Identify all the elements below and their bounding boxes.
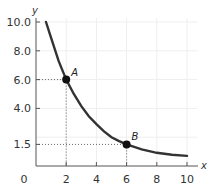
ticks: 02468101.54.06.08.010.0: [7, 16, 195, 186]
data-points: AB: [62, 67, 138, 149]
y-tick-label: 4.0: [14, 102, 32, 115]
y-tick-label: 10.0: [7, 16, 32, 29]
x-tick-label: 10: [180, 173, 194, 186]
y-axis-label: y: [31, 5, 39, 16]
x-tick-label: 8: [153, 173, 160, 186]
curve-line: [46, 22, 187, 156]
x-tick-label: 4: [93, 173, 100, 186]
point-label-b: B: [132, 131, 139, 142]
x-axis-label: x: [200, 160, 207, 171]
y-tick-label: 6.0: [14, 74, 32, 87]
dotted-guide-lines: [36, 80, 127, 166]
axes: [36, 18, 198, 166]
x-tick-label: 6: [123, 173, 130, 186]
x-tick-label: 0: [21, 173, 28, 186]
x-tick-label: 2: [63, 173, 70, 186]
point-a: [62, 76, 70, 84]
y-tick-label: 8.0: [14, 45, 32, 58]
point-label-a: A: [70, 67, 78, 78]
grid-lines: [36, 18, 197, 166]
y-tick-label: 1.5: [14, 138, 32, 151]
point-b: [123, 140, 131, 148]
chart: 02468101.54.06.08.010.0 AB y x: [0, 0, 216, 190]
